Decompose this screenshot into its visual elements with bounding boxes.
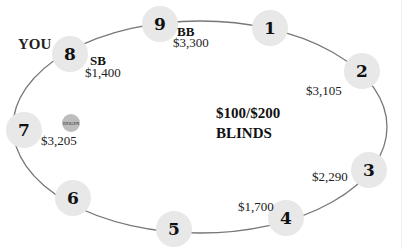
dealer-button: DEALER [62, 114, 80, 132]
seat-3-stack: $2,290 [312, 170, 348, 184]
seat-7-stack: $3,205 [41, 134, 77, 148]
blinds-info: $100/$200 BLINDS [216, 103, 280, 143]
right-edge-divider [401, 0, 402, 249]
blinds-amount: $100/$200 [216, 103, 280, 123]
seat-9-stack: $3,300 [173, 36, 209, 50]
seat-2-stack: $3,105 [306, 84, 342, 98]
blinds-label: BLINDS [216, 123, 280, 143]
seat-5[interactable]: 5 [156, 211, 192, 247]
seat-8-stack: $1,400 [85, 66, 121, 80]
seat-2[interactable]: 2 [344, 53, 380, 89]
seat-3[interactable]: 3 [351, 152, 387, 188]
seat-1[interactable]: 1 [252, 10, 288, 46]
seat-8[interactable]: 8 [52, 36, 88, 72]
seat-4-stack: $1,700 [238, 200, 274, 214]
you-label: YOU [18, 37, 51, 51]
seat-7[interactable]: 7 [6, 112, 42, 148]
seat-6[interactable]: 6 [55, 180, 91, 216]
